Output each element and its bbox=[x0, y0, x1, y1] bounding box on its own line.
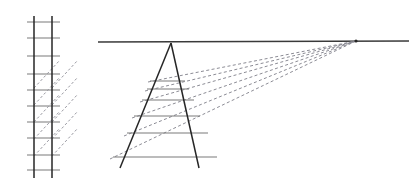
convergence-line-1 bbox=[148, 41, 356, 82]
elevation-diagonal-9 bbox=[52, 111, 78, 139]
perspective-rails-group bbox=[120, 43, 199, 168]
vanishing-point-group bbox=[354, 39, 357, 42]
vanishing-point-marker bbox=[354, 39, 357, 42]
right-rail-perspective bbox=[171, 43, 199, 168]
convergence-line-4 bbox=[132, 41, 356, 118]
elevation-rails-group bbox=[34, 16, 52, 178]
elevation-view-ladder bbox=[27, 16, 78, 178]
horizon-line-group bbox=[98, 41, 409, 42]
left-rail-perspective bbox=[120, 43, 171, 168]
elevation-diagonal-8 bbox=[52, 94, 78, 122]
elevation-diagonal-7 bbox=[52, 77, 78, 105]
elevation-diagonal-10 bbox=[52, 128, 78, 156]
diagram-canvas bbox=[0, 0, 411, 187]
perspective-diagram-figure bbox=[0, 0, 411, 187]
perspective-view-ladder bbox=[113, 43, 217, 168]
elevation-rungs-group bbox=[27, 22, 60, 170]
horizon-line bbox=[98, 41, 409, 42]
